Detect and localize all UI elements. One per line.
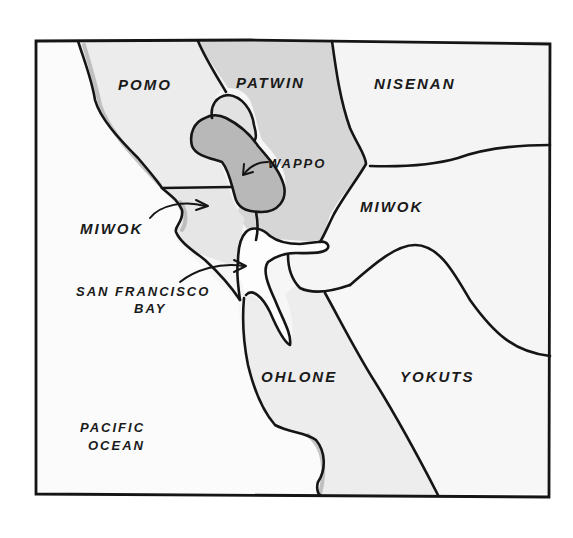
tribal-territory-map: POMO PATWIN NISENAN WAPPO MIWOK MIWOK OH… bbox=[0, 0, 573, 538]
label-ocean-line1: PACIFIC bbox=[80, 420, 145, 435]
label-nisenan: NISENAN bbox=[374, 75, 456, 92]
boundary-pomo-miwok bbox=[162, 187, 232, 188]
label-bay-line2: BAY bbox=[134, 301, 166, 316]
label-miwok-west: MIWOK bbox=[80, 220, 143, 237]
label-ocean-line2: OCEAN bbox=[88, 438, 145, 453]
label-pomo: POMO bbox=[118, 76, 172, 93]
label-yokuts: YOKUTS bbox=[400, 368, 475, 385]
label-patwin: PATWIN bbox=[236, 74, 305, 91]
label-bay-line1: SAN FRANCISCO bbox=[76, 284, 210, 299]
label-wappo: WAPPO bbox=[268, 156, 326, 171]
label-miwok-east: MIWOK bbox=[360, 198, 423, 215]
label-ohlone: OHLONE bbox=[261, 368, 337, 385]
